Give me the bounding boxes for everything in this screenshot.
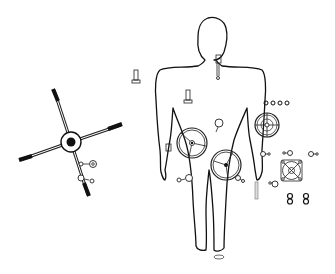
cross-handle-wrench	[19, 89, 122, 196]
figure-eight-pair	[288, 194, 309, 205]
square-flange	[281, 160, 302, 181]
threaded-rod	[255, 182, 258, 199]
pin-parts-leg	[177, 175, 193, 183]
human-figure-outline	[155, 17, 265, 251]
handwheel-center	[211, 150, 245, 183]
ring-row	[264, 101, 289, 105]
bolt-left	[132, 70, 140, 83]
small-knob	[215, 119, 223, 132]
bolt-torso	[184, 90, 192, 103]
handwheel-left	[177, 128, 207, 158]
handwheel-right	[255, 113, 279, 137]
illustration-canvas	[0, 0, 335, 274]
oval-washer	[214, 255, 224, 259]
